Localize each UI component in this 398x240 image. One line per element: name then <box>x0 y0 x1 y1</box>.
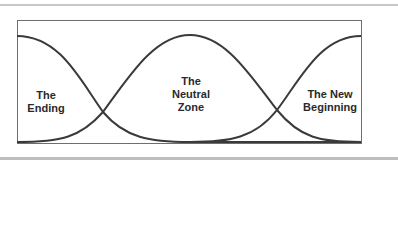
label-line: The <box>166 75 216 88</box>
label-the-ending: The Ending <box>26 89 66 115</box>
label-the-neutral-zone: The Neutral Zone <box>166 75 216 114</box>
label-line: Neutral <box>166 88 216 101</box>
bottom-divider <box>0 157 398 160</box>
label-the-new-beginning: The New Beginning <box>301 88 359 114</box>
label-line: Zone <box>166 101 216 114</box>
label-line: Ending <box>26 102 66 115</box>
label-line: The New <box>301 88 359 101</box>
label-line: The <box>26 89 66 102</box>
label-line: Beginning <box>301 101 359 114</box>
